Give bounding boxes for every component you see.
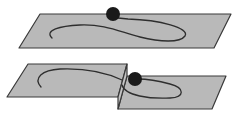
ball-trajectory-diagram (0, 0, 241, 118)
ball-icon (106, 7, 120, 21)
top-panel (19, 7, 231, 48)
ball-icon (128, 72, 142, 86)
bottom-panel (7, 64, 226, 109)
